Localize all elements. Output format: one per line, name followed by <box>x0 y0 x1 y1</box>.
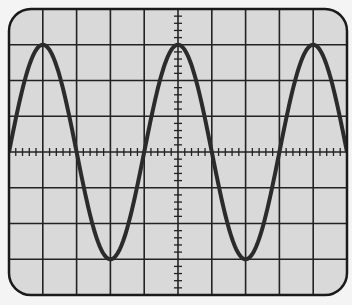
oscilloscope-screen <box>0 0 352 305</box>
